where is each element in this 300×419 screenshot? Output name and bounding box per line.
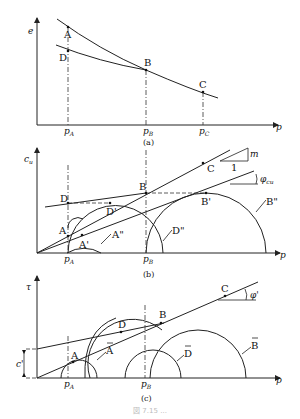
b-leader-d-dprime bbox=[163, 230, 172, 241]
b-label-c: C bbox=[207, 163, 215, 174]
c-caption: (c) bbox=[141, 394, 152, 403]
b-label-b: B bbox=[139, 181, 146, 192]
b-leader-b-dprime bbox=[256, 200, 266, 212]
c-label-d: D bbox=[118, 319, 126, 330]
b-slope-m: m bbox=[250, 149, 259, 159]
b-point-b bbox=[145, 192, 148, 195]
a-point-a bbox=[67, 26, 70, 29]
c-angle-arc bbox=[245, 289, 247, 300]
c-y-label: τ bbox=[26, 282, 32, 292]
b-label-b-prime: B' bbox=[201, 196, 211, 207]
b-angle-arc bbox=[256, 174, 257, 184]
b-label-a: A bbox=[58, 225, 67, 236]
a-label-d: D bbox=[59, 52, 67, 63]
a-tick-pa: pA bbox=[64, 126, 75, 137]
svg-text:D: D bbox=[184, 348, 192, 359]
b-point-a-prime bbox=[81, 234, 84, 237]
c-leader-a bbox=[97, 352, 106, 360]
c-circle-a-small bbox=[61, 360, 97, 378]
a-x-label: p bbox=[276, 122, 282, 132]
panel-b: cu p A B C D A' B' D' A" B" D" bbox=[24, 148, 286, 279]
c-circle-d-bar bbox=[125, 350, 181, 378]
c-x-label: p bbox=[276, 375, 282, 385]
b-label-b-dprime: B" bbox=[266, 196, 278, 207]
b-tick-pa: pA bbox=[64, 254, 75, 265]
a-point-b bbox=[145, 69, 148, 72]
a-virgin-curve bbox=[57, 19, 218, 98]
b-angle-label: φcu bbox=[260, 174, 274, 185]
c-tick-pb: pB bbox=[141, 379, 152, 390]
b-leader-a-dprime bbox=[101, 234, 111, 244]
a-caption: (a) bbox=[143, 138, 154, 147]
c-intercept-arrow-top bbox=[22, 350, 26, 354]
b-point-c bbox=[202, 162, 205, 165]
b-label-d: D bbox=[60, 193, 68, 204]
a-tick-pc: pC bbox=[199, 126, 210, 137]
b-tick-pb: pB bbox=[143, 254, 154, 265]
c-point-b bbox=[160, 322, 163, 325]
a-point-d bbox=[67, 50, 70, 53]
a-tick-pb: pB bbox=[143, 126, 154, 137]
c-leader-d bbox=[177, 355, 184, 361]
b-point-a bbox=[67, 235, 70, 238]
b-caption: (b) bbox=[143, 270, 154, 279]
b-label-a-prime: A' bbox=[78, 239, 89, 250]
c-angle-label: φ' bbox=[250, 290, 259, 300]
c-point-a bbox=[72, 361, 75, 364]
b-x-label: p bbox=[280, 250, 286, 260]
c-label-a: A bbox=[70, 350, 79, 361]
b-slope-1: 1 bbox=[231, 162, 237, 173]
figure-caption: 図 7.15 ... bbox=[0, 405, 300, 415]
panel-c: τ p c' A B C D A bbox=[16, 276, 282, 403]
b-point-d-prime bbox=[109, 202, 112, 205]
a-label-a: A bbox=[63, 29, 72, 40]
a-label-c: C bbox=[199, 79, 207, 90]
c-intercept-arrow-bottom bbox=[22, 373, 26, 377]
a-point-c bbox=[202, 91, 205, 94]
a-y-label: e bbox=[28, 26, 33, 36]
a-reload-curve bbox=[56, 45, 146, 70]
svg-text:A: A bbox=[105, 345, 114, 356]
figure-root: e p A B C D pA pB pC (a) cu p bbox=[0, 0, 300, 419]
c-label-c: C bbox=[221, 283, 229, 294]
c-label-b: B bbox=[159, 309, 166, 320]
b-label-d-dprime: D" bbox=[172, 225, 185, 236]
b-label-a-dprime: A" bbox=[111, 229, 124, 240]
panel-a: e p A B C D pA pB pC (a) bbox=[28, 18, 282, 147]
a-label-b: B bbox=[144, 57, 151, 68]
c-circle-label-d: D bbox=[177, 346, 192, 361]
b-y-label: cu bbox=[24, 154, 33, 165]
c-circle-label-a: A bbox=[97, 343, 114, 360]
c-point-d bbox=[120, 331, 123, 334]
b-label-d-prime: D' bbox=[106, 206, 117, 217]
c-tick-pa: pA bbox=[64, 379, 75, 390]
c-point-c bbox=[224, 295, 227, 298]
c-leader-b bbox=[242, 347, 251, 354]
diagram-svg: e p A B C D pA pB pC (a) cu p bbox=[0, 0, 300, 419]
c-intercept-label: c' bbox=[16, 359, 24, 369]
svg-text:B: B bbox=[251, 340, 258, 351]
b-point-b-prime bbox=[205, 192, 208, 195]
b-slope-triangle bbox=[220, 148, 248, 161]
c-circle-b-bar bbox=[150, 330, 246, 378]
c-circle-label-b: B bbox=[242, 338, 258, 354]
